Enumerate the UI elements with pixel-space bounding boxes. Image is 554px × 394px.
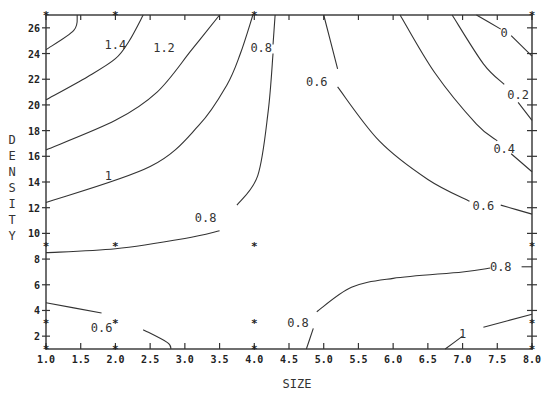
x-tick-label: 3.5 — [211, 354, 229, 365]
y-tick-label: 12 — [28, 203, 40, 214]
design-point-marker: * — [43, 317, 50, 330]
x-axis: 1.01.52.02.53.03.54.04.55.05.56.06.57.07… — [37, 15, 541, 365]
y-tick-label: 24 — [28, 49, 40, 60]
contour-label: 0.6 — [306, 75, 328, 89]
x-tick-label: 6.0 — [384, 354, 402, 365]
y-tick-label: 14 — [28, 177, 40, 188]
design-point-marker: * — [43, 9, 50, 22]
contour-line — [46, 15, 143, 100]
contour-label: 0.8 — [287, 316, 309, 330]
contour-label: 0.4 — [493, 142, 515, 156]
y-tick-label: 6 — [34, 280, 40, 291]
x-tick-label: 1.5 — [72, 354, 90, 365]
contour-label: 1.4 — [105, 38, 127, 52]
x-tick-label: 4.5 — [280, 354, 298, 365]
x-tick-label: 2.5 — [141, 354, 159, 365]
x-tick-label: 5.0 — [315, 354, 333, 365]
x-tick-label: 3.0 — [176, 354, 194, 365]
x-tick-label: 6.5 — [419, 354, 437, 365]
contour-labels: 1.41.210.80.80.60.60.40.200.80.80.61 — [91, 26, 529, 341]
x-tick-label: 7.0 — [454, 354, 472, 365]
contour-lines — [46, 15, 532, 349]
design-point-marker: * — [112, 9, 119, 22]
y-axis-title-letter: T — [8, 213, 15, 227]
contour-line — [501, 205, 532, 214]
contour-line — [46, 15, 253, 203]
x-axis-title: SIZE — [283, 377, 312, 391]
design-point-marker: * — [251, 9, 258, 22]
design-points: **************** — [43, 9, 536, 356]
contour-label: 0.8 — [490, 260, 512, 274]
contour-line — [452, 15, 504, 84]
contour-label: 0.8 — [195, 211, 217, 225]
contour-line — [306, 328, 313, 349]
y-tick-label: 20 — [28, 100, 40, 111]
contour-line — [317, 268, 491, 312]
y-axis-title-letter: D — [8, 133, 15, 147]
contour-label: 0.8 — [250, 41, 272, 55]
design-point-marker: * — [251, 343, 258, 356]
contour-label: 0.6 — [91, 321, 113, 335]
contour-line — [324, 15, 338, 69]
x-tick-label: 5.5 — [349, 354, 367, 365]
contour-line — [338, 87, 470, 201]
plot-frame — [46, 15, 532, 349]
design-point-marker: * — [43, 240, 50, 253]
y-tick-label: 8 — [34, 254, 40, 265]
contour-line — [46, 303, 102, 313]
contour-line — [237, 54, 273, 206]
design-point-marker: * — [43, 343, 50, 356]
design-point-marker: * — [529, 317, 536, 330]
y-tick-label: 22 — [28, 74, 40, 85]
y-axis-title-letter: S — [8, 181, 15, 195]
y-axis-title-letter: I — [8, 197, 15, 211]
contour-label: 0.6 — [473, 199, 495, 213]
y-axis-title-letter: Y — [8, 229, 16, 243]
design-point-marker: * — [112, 240, 119, 253]
y-tick-label: 4 — [34, 305, 40, 316]
y-tick-label: 10 — [28, 228, 40, 239]
contour-line — [273, 15, 275, 45]
y-tick-label: 26 — [28, 23, 40, 34]
design-point-marker: * — [529, 240, 536, 253]
design-point-marker: * — [251, 240, 258, 253]
contour-plot: 1.41.210.80.80.60.60.40.200.80.80.61 1.0… — [0, 0, 554, 394]
contour-label: 1.2 — [153, 41, 175, 55]
design-point-marker: * — [529, 9, 536, 22]
y-tick-label: 16 — [28, 151, 40, 162]
design-point-marker: * — [112, 343, 119, 356]
contour-line — [143, 330, 171, 349]
contour-line — [483, 314, 532, 327]
contour-label: 0 — [501, 26, 508, 40]
y-tick-label: 18 — [28, 126, 40, 137]
contour-line — [46, 231, 220, 253]
y-tick-label: 2 — [34, 331, 40, 342]
y-axis-title-letter: E — [8, 149, 15, 163]
y-axis-title: DENSITY — [8, 133, 16, 243]
design-point-marker: * — [112, 317, 119, 330]
design-point-marker: * — [529, 343, 536, 356]
contour-label: 1 — [459, 327, 466, 341]
contour-line — [400, 15, 497, 141]
contour-label: 0.2 — [507, 88, 529, 102]
x-tick-label: 7.5 — [488, 354, 506, 365]
y-axis-title-letter: N — [8, 165, 15, 179]
contour-line — [46, 15, 77, 50]
design-point-marker: * — [251, 317, 258, 330]
contour-label: 1 — [105, 169, 112, 183]
